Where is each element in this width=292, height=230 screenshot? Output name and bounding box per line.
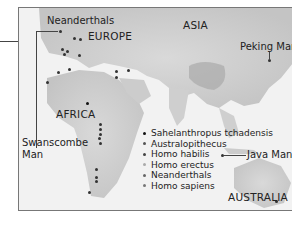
legend-label: Sahelanthropus tchadensis (151, 128, 273, 138)
legend-item: Homo sapiens (143, 181, 273, 192)
legend-label: Australopithecus (151, 139, 227, 149)
callout-swanscombe-man: Swanscombe Man (22, 137, 88, 161)
region-label-africa: AFRICA (56, 109, 95, 121)
legend-dot-icon (143, 142, 146, 145)
region-label-australia: AUSTRALIA (228, 192, 288, 204)
site-dot (98, 137, 101, 140)
legend-dot-icon (143, 163, 146, 166)
legend-label: Homo erectus (151, 160, 214, 170)
legend-item: Homo habilis (143, 149, 273, 160)
site-dot (88, 191, 91, 194)
callout-peking-man: Peking Man (240, 41, 292, 52)
legend-dot-icon (143, 132, 146, 135)
legend-dot-icon (143, 184, 146, 187)
callout-swanscombe-line1: Swanscombe (22, 137, 88, 148)
legend-label: Homo sapiens (151, 181, 215, 191)
map-frame: EUROPE ASIA AFRICA AUSTRALIA Neanderthal… (18, 7, 292, 211)
site-dot (79, 38, 82, 41)
site-dot (59, 30, 62, 33)
site-dot (63, 53, 66, 56)
site-dot (78, 54, 81, 57)
site-dot (115, 70, 118, 73)
region-label-europe: EUROPE (88, 31, 132, 43)
legend-dot-icon (143, 174, 146, 177)
legend-label: Homo habilis (151, 149, 210, 159)
callout-swanscombe-line2: Man (22, 149, 43, 160)
site-dot (95, 176, 98, 179)
site-dot (115, 76, 118, 79)
site-dot (99, 123, 102, 126)
site-dot (99, 133, 102, 136)
outer-leader-line (0, 41, 18, 42)
site-dot (95, 168, 98, 171)
swanscombe-leader-line (36, 31, 37, 148)
site-dot (46, 81, 49, 84)
site-dot (99, 142, 102, 145)
site-dot (73, 37, 76, 40)
site-dot (268, 59, 271, 62)
legend-item: Sahelanthropus tchadensis (143, 128, 273, 139)
site-dot (99, 128, 102, 131)
site-dot (66, 50, 69, 53)
peking-man-leader-line (269, 52, 270, 59)
site-dot (68, 68, 71, 71)
legend-label: Neanderthals (151, 170, 211, 180)
region-label-asia: ASIA (183, 20, 208, 32)
callout-neanderthals: Neanderthals (47, 15, 114, 26)
site-dot (127, 69, 130, 72)
site-dot (57, 71, 60, 74)
legend-item: Australopithecus (143, 139, 273, 150)
legend-dot-icon (143, 153, 146, 156)
site-dot (86, 102, 89, 105)
swanscombe-leader-line (36, 31, 58, 32)
legend-item: Neanderthals (143, 170, 273, 181)
legend-item: Homo erectus (143, 160, 273, 171)
map-legend: Sahelanthropus tchadensis Australopithec… (143, 128, 273, 191)
site-dot (95, 180, 98, 183)
site-dot (61, 48, 64, 51)
